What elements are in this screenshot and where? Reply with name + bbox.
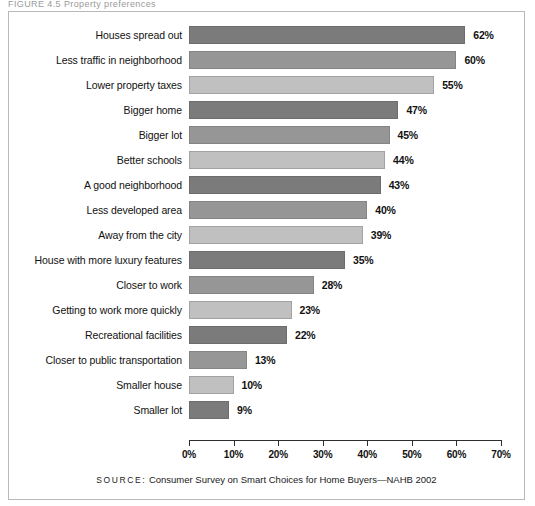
- bar-value-label: 62%: [473, 26, 493, 44]
- bar[interactable]: [189, 201, 367, 219]
- category-label: Closer to work: [116, 276, 182, 294]
- x-axis-tick: [234, 440, 235, 446]
- category-label: Bigger home: [124, 101, 182, 119]
- category-label: Lower property taxes: [86, 76, 182, 94]
- bar-track: [189, 376, 234, 394]
- bar-value-label: 40%: [375, 201, 395, 219]
- bar-row: House with more luxury features35%: [9, 251, 524, 276]
- bar-track: [189, 201, 367, 219]
- bar[interactable]: [189, 176, 381, 194]
- bar-track: [189, 26, 465, 44]
- bar-track: [189, 251, 345, 269]
- bar-value-label: 35%: [353, 251, 373, 269]
- bar-row: Closer to public transportation13%: [9, 351, 524, 376]
- category-label: Getting to work more quickly: [52, 301, 182, 319]
- bar-row: A good neighborhood43%: [9, 176, 524, 201]
- bar-value-label: 9%: [237, 401, 252, 419]
- bar-row: Recreational facilities22%: [9, 326, 524, 351]
- bar-track: [189, 101, 398, 119]
- bar-row: Lower property taxes55%: [9, 76, 524, 101]
- source-label: SOURCE:: [96, 475, 146, 485]
- bar-row: Away from the city39%: [9, 226, 524, 251]
- bar-track: [189, 401, 229, 419]
- bar-track: [189, 226, 363, 244]
- category-label: Closer to public transportation: [46, 351, 182, 369]
- bar[interactable]: [189, 126, 390, 144]
- bar-value-label: 28%: [322, 276, 342, 294]
- category-label: Smaller house: [116, 376, 182, 394]
- bar-track: [189, 326, 287, 344]
- bar[interactable]: [189, 351, 247, 369]
- bar[interactable]: [189, 301, 292, 319]
- bar-row: Better schools44%: [9, 151, 524, 176]
- x-axis-tick-label: 60%: [447, 449, 466, 460]
- x-axis-tick: [323, 440, 324, 446]
- bar-row: Bigger lot45%: [9, 126, 524, 151]
- category-label: Smaller lot: [134, 401, 183, 419]
- category-label: Houses spread out: [96, 26, 182, 44]
- bar-rows: Houses spread out62%Less traffic in neig…: [9, 26, 524, 426]
- bar-track: [189, 51, 456, 69]
- bar-track: [189, 151, 385, 169]
- category-label: Bigger lot: [139, 126, 182, 144]
- bar-value-label: 13%: [255, 351, 275, 369]
- x-axis-tick-label: 0%: [182, 449, 196, 460]
- bar[interactable]: [189, 326, 287, 344]
- bar-row: Getting to work more quickly23%: [9, 301, 524, 326]
- bar-value-label: 47%: [406, 101, 426, 119]
- bar-track: [189, 176, 381, 194]
- category-label: Less traffic in neighborhood: [56, 51, 182, 69]
- bar-row: Less traffic in neighborhood60%: [9, 51, 524, 76]
- bar-value-label: 44%: [393, 151, 413, 169]
- bar[interactable]: [189, 276, 314, 294]
- bar-track: [189, 126, 390, 144]
- source-text: Consumer Survey on Smart Choices for Hom…: [149, 474, 437, 485]
- bar-row: Houses spread out62%: [9, 26, 524, 51]
- bar[interactable]: [189, 26, 465, 44]
- category-label: Recreational facilities: [85, 326, 182, 344]
- bar-value-label: 60%: [464, 51, 484, 69]
- category-label: House with more luxury features: [35, 251, 182, 269]
- bar-value-label: 45%: [398, 126, 418, 144]
- category-label: Better schools: [117, 151, 182, 169]
- x-axis-tick-label: 70%: [491, 449, 510, 460]
- category-label: Less developed area: [86, 201, 182, 219]
- bar-row: Closer to work28%: [9, 276, 524, 301]
- x-axis-tick: [278, 440, 279, 446]
- bar[interactable]: [189, 51, 456, 69]
- x-axis-tick-label: 50%: [402, 449, 421, 460]
- category-label: A good neighborhood: [84, 176, 182, 194]
- figure-caption-sliver: FIGURE 4.5 Property preferences: [8, 0, 308, 9]
- bar[interactable]: [189, 401, 229, 419]
- bar-value-label: 23%: [300, 301, 320, 319]
- x-axis-tick: [189, 440, 190, 446]
- bar[interactable]: [189, 76, 434, 94]
- bar-row: Less developed area40%: [9, 201, 524, 226]
- x-axis-tick: [456, 440, 457, 446]
- bar-value-label: 22%: [295, 326, 315, 344]
- figure-frame: Houses spread out62%Less traffic in neig…: [8, 11, 525, 500]
- bar-track: [189, 276, 314, 294]
- x-axis-tick: [501, 440, 502, 446]
- source-note: SOURCE: Consumer Survey on Smart Choices…: [9, 474, 524, 485]
- bar-value-label: 55%: [442, 76, 462, 94]
- bar-row: Smaller house10%: [9, 376, 524, 401]
- x-axis-tick: [412, 440, 413, 446]
- bar-chart: Houses spread out62%Less traffic in neig…: [9, 12, 524, 499]
- x-axis-tick-label: 40%: [358, 449, 377, 460]
- bar-value-label: 10%: [242, 376, 262, 394]
- bar-row: Smaller lot9%: [9, 401, 524, 426]
- category-label: Away from the city: [98, 226, 182, 244]
- bar-row: Bigger home47%: [9, 101, 524, 126]
- bar[interactable]: [189, 226, 363, 244]
- bar-track: [189, 76, 434, 94]
- x-axis-tick-label: 10%: [224, 449, 243, 460]
- bar-value-label: 39%: [371, 226, 391, 244]
- bar[interactable]: [189, 151, 385, 169]
- bar[interactable]: [189, 101, 398, 119]
- x-axis-tick: [367, 440, 368, 446]
- bar[interactable]: [189, 251, 345, 269]
- bar[interactable]: [189, 376, 234, 394]
- bar-track: [189, 301, 292, 319]
- x-axis-tick-label: 30%: [313, 449, 332, 460]
